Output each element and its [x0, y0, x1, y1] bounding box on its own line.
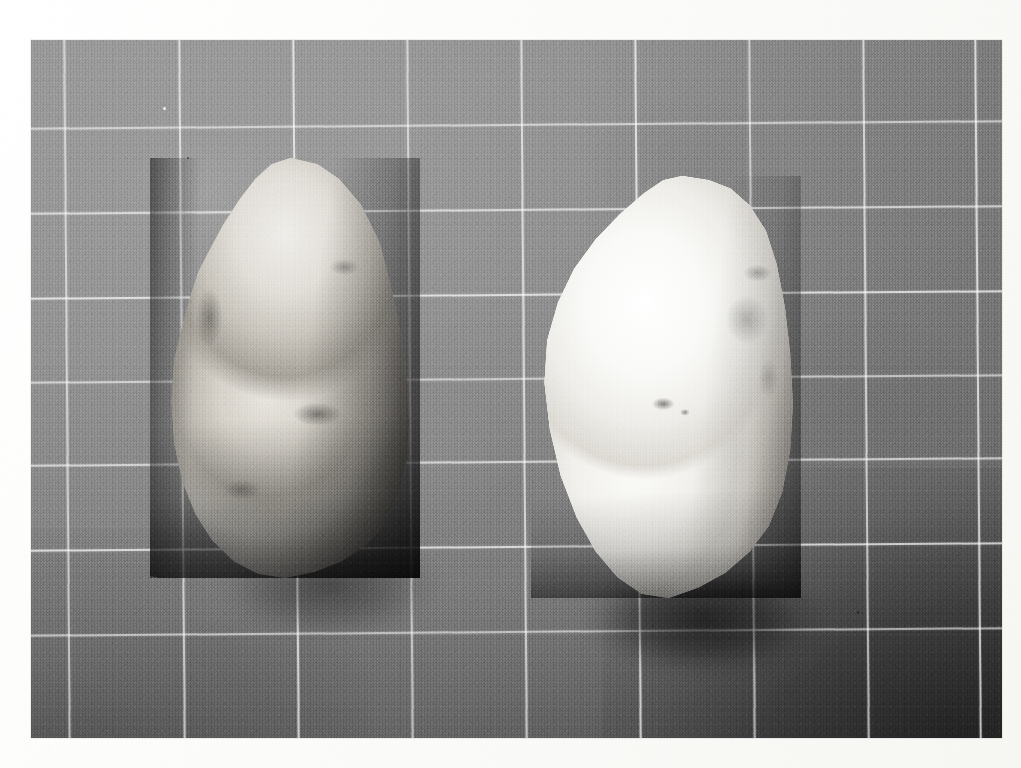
artifact-left — [150, 158, 420, 578]
artifact-left-flake-scars — [150, 158, 420, 578]
artifact-right-flake-scars — [531, 176, 801, 598]
photographic-plate-page — [0, 0, 1021, 768]
photograph — [31, 40, 1002, 738]
artifact-right — [531, 176, 801, 598]
